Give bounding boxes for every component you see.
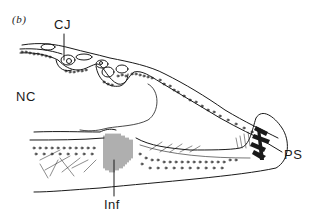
label-cj: CJ (54, 18, 71, 31)
anatomical-diagram: (b) CJ NC Inf PS (0, 0, 312, 217)
diagram-drawing (0, 0, 312, 217)
ps-leader-line (262, 140, 282, 152)
connective-tissue-fibres (40, 132, 250, 178)
label-inf: Inf (104, 198, 120, 211)
label-ps: PS (284, 148, 302, 161)
label-nc: NC (16, 90, 36, 103)
upper-epithelium-band (20, 44, 278, 142)
lumen-outline (80, 84, 157, 131)
inf-hatching (104, 134, 132, 172)
lower-epithelium (30, 113, 287, 192)
panel-label: (b) (12, 14, 26, 25)
upper-band-nuclei (21, 51, 253, 133)
